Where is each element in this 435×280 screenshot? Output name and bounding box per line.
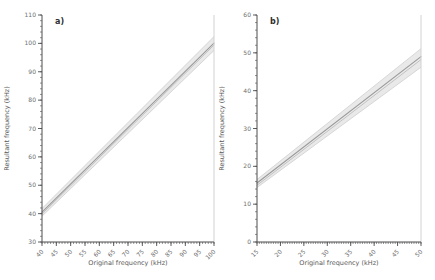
y-tick-label: 100 [25,39,37,46]
panel-label: a) [55,17,64,26]
x-tick-label: 45 [49,248,59,258]
x-axis-title: Original frequency (kHz) [88,259,167,267]
regression-line [42,43,214,212]
y-tick-label: 40 [243,87,251,94]
y-tick-label: 80 [28,96,36,103]
x-tick-label: 70 [120,248,130,258]
x-tick-label: 85 [163,248,173,258]
regression-line [257,57,421,183]
y-axis-title: Resultant frequency (kHz) [218,86,226,171]
x-tick-label: 95 [192,248,202,258]
y-tick-label: 110 [25,11,37,18]
y-tick-label: 20 [243,162,251,169]
y-tick-label: 90 [28,68,36,75]
y-tick-label: 60 [243,11,251,18]
x-tick-label: 50 [63,248,73,258]
reference-line [42,45,214,214]
x-tick-label: 15 [249,248,259,258]
y-axis-ticks: 30405060708090100110 [25,11,42,245]
panel-label: b) [270,17,279,26]
x-tick-label: 90 [178,248,188,258]
y-tick-label: 30 [28,238,36,245]
panel-a-chart: 4045505560657075808590951003040506070809… [0,0,218,280]
x-axis-ticks: 404550556065707580859095100 [34,242,216,261]
x-tick-label: 75 [135,248,145,258]
y-tick-label: 10 [243,200,251,207]
x-tick-label: 30 [320,248,330,258]
x-tick-label: 60 [92,248,102,258]
two-panel-frequency-figure: 4045505560657075808590951003040506070809… [0,0,435,280]
x-tick-label: 40 [34,248,44,258]
y-tick-label: 50 [28,181,36,188]
panel-b-chart: 15202530354045500102030405060Original fr… [217,0,435,280]
axes [257,15,421,242]
x-tick-label: 45 [390,248,400,258]
y-axis-ticks: 0102030405060 [243,11,257,245]
reference-line [257,60,421,186]
x-tick-label: 65 [106,248,116,258]
x-tick-label: 100 [204,248,217,261]
x-tick-label: 80 [149,248,159,258]
y-axis-title: Resultant frequency (kHz) [3,86,11,171]
x-tick-label: 20 [273,248,283,258]
y-tick-label: 60 [28,153,36,160]
x-tick-label: 35 [343,248,353,258]
x-axis-title: Original frequency (kHz) [299,259,378,267]
y-tick-label: 40 [28,210,36,217]
x-tick-label: 55 [77,248,87,258]
x-tick-label: 40 [366,248,376,258]
x-tick-label: 25 [296,248,306,258]
x-tick-label: 50 [413,248,423,258]
y-tick-label: 0 [247,238,251,245]
y-tick-label: 30 [243,125,251,132]
y-tick-label: 70 [28,125,36,132]
confidence-band [42,37,214,217]
x-axis-ticks: 1520253035404550 [249,242,423,258]
y-tick-label: 50 [243,49,251,56]
